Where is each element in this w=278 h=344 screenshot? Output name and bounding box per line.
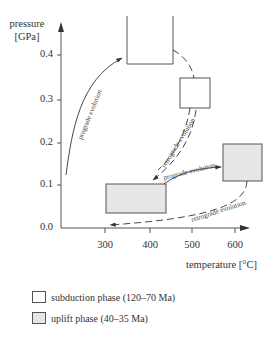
label-prograde-1: prograde evolution: [76, 88, 103, 141]
legend-swatch-gray: [32, 312, 46, 324]
legend-item-subduction: subduction phase (120–70 Ma): [32, 290, 175, 304]
legend-label: uplift phase (40–35 Ma): [51, 313, 148, 324]
y-axis: [57, 22, 64, 228]
legend-swatch-white: [32, 291, 46, 303]
uplift-box-left: [106, 184, 166, 213]
y-tick-label: 0.1: [23, 178, 53, 189]
x-axis-title: temperature [°C]: [186, 258, 257, 271]
retrograde-path-top: [173, 50, 194, 78]
y-axis-title-line2: [GPa]: [6, 30, 48, 43]
y-axis-title: pressure [GPa]: [6, 17, 48, 43]
label-retrograde-2: retrograde evolution: [190, 199, 247, 224]
y-axis-arrow-icon: [58, 22, 64, 32]
label-retrograde-1: retrograde evolution: [160, 116, 197, 169]
y-tick-label: 0.3: [23, 93, 53, 104]
x-tick-label: 600: [220, 239, 250, 250]
prograde-path-1: [66, 58, 122, 175]
x-axis-arrow-icon: [240, 225, 250, 231]
x-tick-label: 300: [90, 239, 120, 250]
x-axis: [61, 225, 250, 233]
y-tick-label: 0.4: [23, 48, 53, 59]
y-tick-label: 0.0: [23, 221, 53, 232]
x-tick-label: 500: [177, 239, 207, 250]
y-tick-label: 0.2: [23, 136, 53, 147]
subduction-box-large: [127, 16, 173, 64]
subduction-box-small: [180, 78, 210, 108]
y-axis-title-line1: pressure: [6, 17, 48, 30]
legend-item-uplift: uplift phase (40–35 Ma): [32, 311, 148, 325]
legend-label: subduction phase (120–70 Ma): [51, 292, 175, 303]
uplift-box-right: [223, 144, 262, 181]
x-tick-label: 400: [135, 239, 165, 250]
